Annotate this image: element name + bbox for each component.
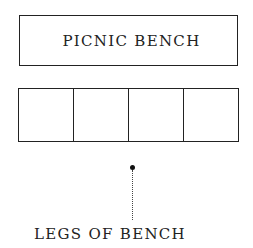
grid-cell [184, 89, 238, 141]
picnic-bench-box: PICNIC BENCH [19, 15, 238, 66]
legs-of-bench-label: LEGS OF BENCH [34, 225, 186, 243]
grid-cell [74, 89, 129, 141]
annotation-dot-icon [130, 165, 135, 170]
picnic-bench-label: PICNIC BENCH [62, 32, 200, 50]
grid-cell [129, 89, 184, 141]
annotation-dotted-line [132, 170, 133, 220]
grid-cell [19, 89, 74, 141]
bench-legs-grid [18, 88, 239, 142]
